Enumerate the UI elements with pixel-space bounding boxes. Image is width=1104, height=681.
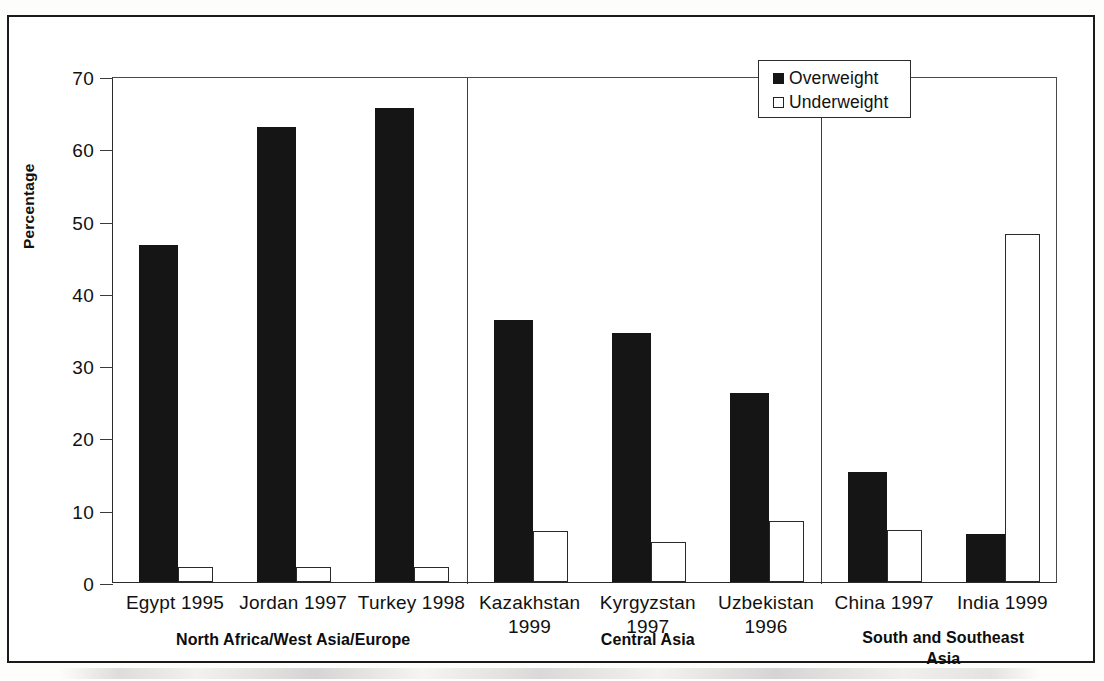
- group-label-1: Central Asia: [493, 629, 803, 650]
- legend-item-overweight: Overweight: [773, 66, 910, 90]
- y-tick-label: 10: [72, 502, 94, 524]
- y-tick-mark: 30: [100, 367, 113, 368]
- bar-overweight-3: [494, 320, 533, 582]
- y-tick-label: 40: [72, 285, 94, 307]
- x-axis-label-line1: Jordan 1997: [234, 591, 352, 615]
- group-separator-1: [467, 78, 468, 584]
- x-axis-label-0: Egypt 1995: [116, 591, 234, 615]
- x-axis-label-line1: India 1999: [943, 591, 1061, 615]
- group-label-0: North Africa/West Asia/Europe: [138, 629, 448, 650]
- filled-square-icon: [773, 73, 784, 84]
- legend-label-underweight: Underweight: [789, 92, 888, 113]
- x-axis-label-line1: Uzbekistan: [707, 591, 825, 615]
- legend-item-underweight: Underweight: [773, 90, 910, 114]
- plot-area: 706050403020100: [112, 77, 1057, 583]
- y-tick-mark: 0: [100, 584, 113, 585]
- group-label-line1: South and Southeast: [847, 627, 1039, 648]
- x-axis-label-line1: China 1997: [825, 591, 943, 615]
- group-label-line1: North Africa/West Asia/Europe: [138, 629, 448, 650]
- scan-artifact: [60, 668, 1040, 679]
- figure-outer-frame: Percentage 706050403020100 Overweight Un…: [7, 15, 1095, 663]
- bar-overweight-5: [730, 393, 769, 582]
- x-axis-label-1: Jordan 1997: [234, 591, 352, 615]
- bar-underweight-2: [414, 567, 449, 582]
- bar-underweight-1: [296, 567, 331, 582]
- y-tick-mark: 50: [100, 223, 113, 224]
- bar-overweight-1: [257, 127, 296, 582]
- bar-underweight-5: [769, 521, 804, 582]
- y-tick-mark: 70: [100, 78, 113, 79]
- x-axis-label-6: China 1997: [825, 591, 943, 615]
- x-axis-label-line1: Turkey 1998: [352, 591, 470, 615]
- y-tick-label: 0: [83, 574, 94, 596]
- y-tick-label: 50: [72, 213, 94, 235]
- bar-overweight-2: [375, 108, 414, 582]
- group-label-line2: Asia: [847, 648, 1039, 669]
- y-tick-label: 70: [72, 68, 94, 90]
- x-axis-label-line1: Kazakhstan: [471, 591, 589, 615]
- x-axis-label-line1: Egypt 1995: [116, 591, 234, 615]
- bar-underweight-6: [887, 530, 922, 582]
- y-tick-mark: 10: [100, 512, 113, 513]
- bar-overweight-7: [966, 534, 1005, 582]
- group-label-2: South and SoutheastAsia: [847, 627, 1039, 669]
- y-tick-label: 20: [72, 429, 94, 451]
- x-axis-label-line1: Kyrgyzstan: [589, 591, 707, 615]
- x-axis-label-7: India 1999: [943, 591, 1061, 615]
- y-axis-title: Percentage: [20, 163, 38, 249]
- y-tick-mark: 20: [100, 439, 113, 440]
- y-tick-mark: 40: [100, 295, 113, 296]
- y-tick-label: 60: [72, 140, 94, 162]
- bar-underweight-0: [178, 567, 213, 582]
- legend-label-overweight: Overweight: [789, 68, 879, 89]
- chart-legend: Overweight Underweight: [758, 60, 911, 118]
- bar-overweight-0: [139, 245, 178, 582]
- x-axis-label-2: Turkey 1998: [352, 591, 470, 615]
- hollow-square-icon: [773, 97, 784, 108]
- bar-overweight-4: [612, 333, 651, 582]
- bar-underweight-3: [533, 531, 568, 582]
- group-separator-2: [821, 78, 822, 584]
- y-tick-mark: 60: [100, 150, 113, 151]
- scanned-page-background: Percentage 706050403020100 Overweight Un…: [0, 0, 1104, 681]
- y-tick-label: 30: [72, 357, 94, 379]
- bar-overweight-6: [848, 472, 887, 582]
- bar-underweight-7: [1005, 234, 1040, 582]
- group-label-line1: Central Asia: [493, 629, 803, 650]
- bar-underweight-4: [651, 542, 686, 582]
